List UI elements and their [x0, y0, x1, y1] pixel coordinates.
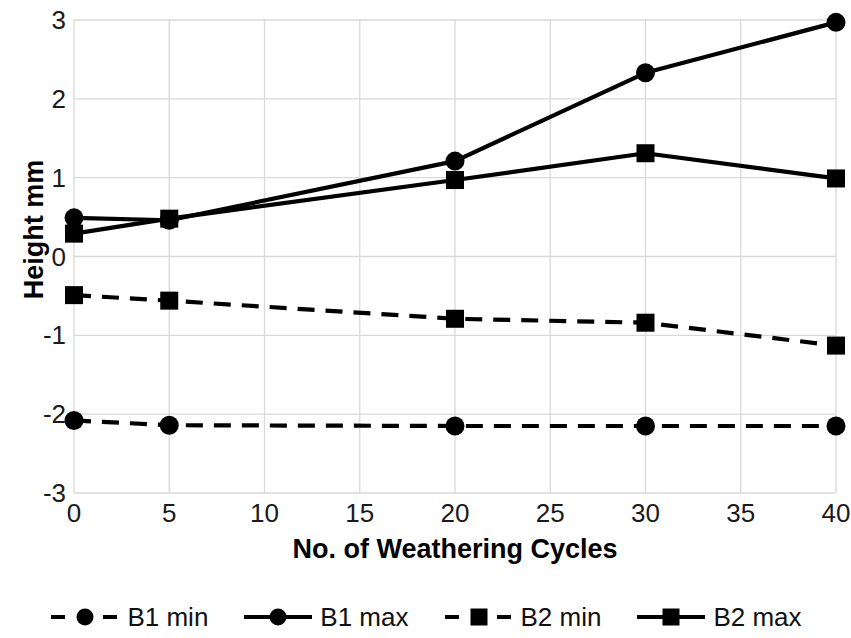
x-tick-label: 0	[67, 498, 81, 529]
legend-marker	[270, 609, 287, 626]
legend-marker	[470, 609, 487, 626]
data-point-marker	[827, 169, 845, 187]
x-tick-label: 40	[822, 498, 851, 529]
chart-legend: B1 minB1 maxB2 minB2 max	[0, 596, 851, 638]
data-point-marker	[160, 416, 179, 435]
x-tick-label: 10	[250, 498, 279, 529]
legend-marker	[77, 609, 94, 626]
x-tick-label: 15	[345, 498, 374, 529]
data-point-marker	[637, 314, 655, 332]
legend-square-marker-icon	[443, 605, 515, 629]
x-tick-label: 5	[162, 498, 176, 529]
data-point-marker	[827, 416, 846, 435]
data-point-marker	[827, 337, 845, 355]
data-point-marker	[65, 208, 84, 227]
legend-label: B2 max	[713, 604, 801, 630]
legend-item-b1-max[interactable]: B1 max	[242, 604, 408, 630]
x-axis-title: No. of Weathering Cycles	[74, 534, 836, 565]
data-point-marker	[446, 152, 465, 171]
data-point-marker	[636, 416, 655, 435]
data-point-marker	[637, 144, 655, 162]
x-tick-label: 30	[631, 498, 660, 529]
legend-item-b2-max[interactable]: B2 max	[635, 604, 801, 630]
x-tick-label: 25	[536, 498, 565, 529]
legend-circle-marker-icon	[49, 605, 121, 629]
legend-label: B2 min	[521, 604, 602, 630]
data-point-marker	[446, 310, 464, 328]
x-tick-label: 35	[726, 498, 755, 529]
legend-label: B1 min	[127, 604, 208, 630]
data-point-marker	[827, 13, 846, 32]
x-tick-label: 20	[441, 498, 470, 529]
legend-item-b1-min[interactable]: B1 min	[49, 604, 208, 630]
legend-square-marker-icon	[635, 605, 707, 629]
legend-circle-marker-icon	[242, 605, 314, 629]
data-point-marker	[65, 225, 83, 243]
data-point-marker	[160, 292, 178, 310]
data-point-marker	[65, 411, 84, 430]
data-point-marker	[446, 416, 465, 435]
data-point-marker	[65, 286, 83, 304]
legend-item-b2-min[interactable]: B2 min	[443, 604, 602, 630]
data-point-marker	[160, 210, 178, 228]
chart-container: 3210-1-2-3 Height mm 0510152025303540 No…	[0, 0, 851, 638]
legend-label: B1 max	[320, 604, 408, 630]
data-point-marker	[636, 63, 655, 82]
data-point-marker	[446, 171, 464, 189]
legend-marker	[663, 609, 680, 626]
